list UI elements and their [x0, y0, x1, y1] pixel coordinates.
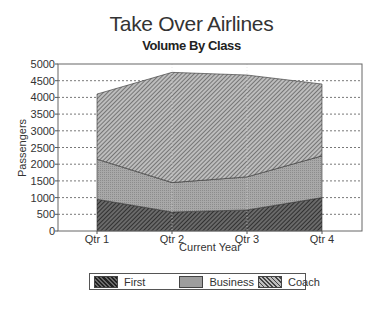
y-tick-label: 1500 [31, 175, 55, 187]
legend-item-coach: Coach [258, 276, 320, 288]
stacked-areas [97, 64, 322, 231]
y-axis-label: Passengers [16, 118, 28, 177]
business-swatch-icon [179, 276, 203, 288]
y-tick-label: 3000 [31, 125, 55, 137]
y-tick-label: 1000 [31, 192, 55, 204]
chart-plot: 0500100015002000250030003500400045005000… [0, 0, 383, 314]
chart-legend: First Business Coach [89, 273, 306, 290]
y-tick-label: 4500 [31, 75, 55, 87]
y-tick-label: 2000 [31, 158, 55, 170]
x-tick-label: Qtr 4 [310, 233, 334, 245]
legend-item-first: First [94, 276, 145, 288]
x-tick-label: Qtr 1 [85, 233, 109, 245]
legend-label-first: First [124, 276, 145, 288]
y-tick-label: 500 [37, 208, 55, 220]
coach-swatch-icon [258, 276, 282, 288]
y-tick-label: 5000 [31, 58, 55, 70]
y-tick-label: 3500 [31, 108, 55, 120]
x-axis-label: Current Year [179, 241, 241, 253]
legend-label-business: Business [209, 276, 254, 288]
legend-label-coach: Coach [288, 276, 320, 288]
y-tick-label: 0 [49, 225, 55, 237]
y-tick-label: 4000 [31, 91, 55, 103]
first-swatch-icon [94, 276, 118, 288]
y-tick-label: 2500 [31, 142, 55, 154]
legend-item-business: Business [179, 276, 254, 288]
